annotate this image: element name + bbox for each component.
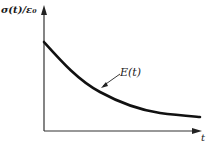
x-axis-label: t bbox=[201, 132, 205, 143]
curve-e-t bbox=[44, 42, 200, 117]
y-axis-label: σ(t)/ε₀ bbox=[1, 4, 37, 15]
y-axis-arrow-icon bbox=[41, 5, 47, 15]
relaxation-chart bbox=[0, 0, 216, 151]
curve-label: E(t) bbox=[120, 66, 141, 79]
